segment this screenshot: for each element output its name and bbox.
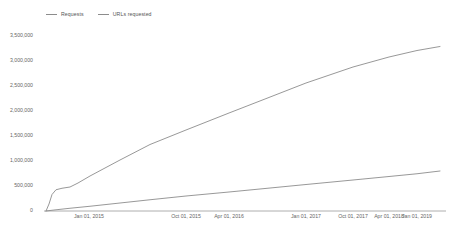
series-line-urls-requested [46,47,440,212]
plot-area [0,0,449,233]
series-line-requests [46,171,440,211]
line-chart: Requests URLs requested 3,500,0003,000,0… [0,0,449,233]
series-paths [46,47,440,212]
